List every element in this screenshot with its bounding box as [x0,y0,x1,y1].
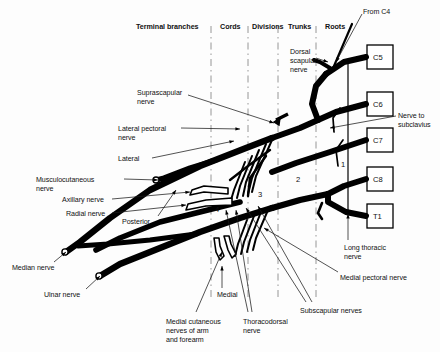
from-c4-label: From C4 [363,8,390,17]
leader-medial-pectoral-arrowhead [264,228,269,232]
zone-number-4: 4 [215,205,219,214]
root-label-c7: C7 [373,136,383,145]
leader-medial-cord-arrowhead [220,266,223,271]
nerve-to-subclavius-label: Nerve to subclavius [398,112,431,130]
root-c6-path [318,104,366,120]
zone-number-3: 3 [258,190,262,199]
root-label-t1: T1 [373,212,382,221]
leader-suprascapular [188,95,274,123]
leader-subclavius-arrowhead [330,126,335,129]
leader-subclavius [330,116,396,128]
leader-radial-arrowhead [181,204,186,207]
radial-nerve-label: Radial nerve [66,210,105,219]
zone-number-1: 1 [341,160,345,169]
root-label-c6: C6 [373,100,383,109]
medial-pectoral-branch [318,203,322,219]
column-header-divisions: Divisions [252,22,284,31]
nerve-roots [272,57,366,216]
dorsal-scapular-label: Dorsal scapular nerve [290,48,316,76]
suprascapular-label: Suprascapular nerve [137,89,182,107]
root-c8-path [328,179,366,194]
leader-medial-pectoral [264,228,338,272]
root-c7-middle-trunk-path [272,140,366,172]
median-nerve-label: Median nerve [12,264,54,273]
leader-lateral-pectoral-arrowhead [235,127,240,130]
long-thoracic-label: Long thoracic nerve [344,244,386,262]
zone-number-2: 2 [296,175,300,184]
medial-pectoral-label: Medial pectoral nerve [340,274,407,283]
lateral-pectoral-label: Lateral pectoral nerve [118,125,166,143]
brachial-plexus-figure: Terminal branchesCordsDivisionsTrunksRoo… [0,0,440,352]
leader-subscapular-b [258,206,312,302]
column-header-trunks: Trunks [288,22,311,31]
root-label-c8: C8 [373,175,383,184]
leader-thoracodorsal-b-arrowhead [235,210,238,215]
thoracodorsal-label: Thoracodorsal nerve [243,318,288,336]
leader-lateral-pectoral [181,128,240,129]
musculocutaneous-label: Musculocutaneous nerve [36,176,94,194]
medial-cutaneous-label: Medial cutaneous nerves of arm and forea… [166,318,221,346]
medial-cutaneous-tube-a [214,238,224,260]
root-t1-path [328,194,366,216]
column-header-terminal-branches: Terminal branches [136,22,199,31]
leader-posterior-arrowhead [172,190,176,195]
leader-dorsal-scapular-arrowhead [323,59,328,62]
column-header-roots: Roots [325,22,345,31]
ulnar-nerve-label: Ulnar nerve [44,291,80,300]
leader-medial-cutaneous [196,252,222,312]
leader-suprascapular-arrowhead [269,120,274,123]
column-header-cords: Cords [220,22,241,31]
suprascapular-group [274,114,288,125]
lateral-cord-label: Lateral [118,155,139,164]
leader-subscapular-a [246,208,306,302]
root-label-c5: C5 [373,53,383,62]
medial-cord-label: Medial [217,291,238,300]
posterior-cord-label: Posterior [122,218,150,227]
subscapular-label: Subscapular nerves [300,307,362,316]
upper-trunk-path [272,74,326,138]
axillary-nerve-label: Axillary nerve [62,196,104,205]
musculocutaneous-path [156,160,216,180]
axillary-nerve-tube [190,186,228,195]
root-c5-path [326,57,366,74]
